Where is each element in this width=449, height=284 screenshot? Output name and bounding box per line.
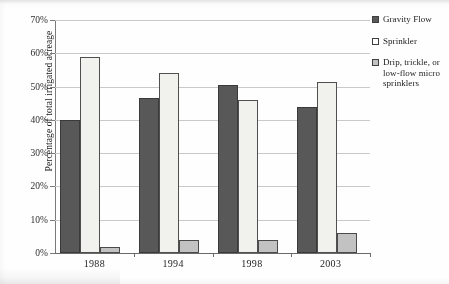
bar-2003-series-0: [297, 107, 317, 253]
scan-smudge: [0, 268, 120, 284]
legend-item-2: Drip, trickle, or low-flow micro sprinkl…: [372, 57, 448, 89]
light-gray-square-icon: [372, 59, 379, 66]
x-tick-mark-1: [134, 253, 135, 257]
bar-1994-series-1: [159, 73, 179, 253]
x-tick-mark-4: [370, 253, 371, 257]
y-tick-label-10: 10%: [4, 215, 48, 225]
bar-1988-series-1: [80, 57, 100, 253]
x-tick-mark-3: [291, 253, 292, 257]
bar-1994-series-0: [139, 98, 159, 253]
y-tick-label-70: 70%: [4, 15, 48, 25]
legend-label-2: Drip, trickle, or low-flow micro sprinkl…: [383, 57, 448, 89]
bar-1998-series-1: [238, 100, 258, 253]
plot-area: [55, 20, 370, 253]
y-tick-label-40: 40%: [4, 115, 48, 125]
bar-group-2003: [297, 20, 357, 253]
y-tick-label-30: 30%: [4, 148, 48, 158]
y-axis-title: Percentage of total irrigated acreage: [44, 6, 54, 196]
bar-1994-series-2: [179, 240, 199, 253]
y-tick-label-50: 50%: [4, 82, 48, 92]
bar-1998-series-2: [258, 240, 278, 253]
legend-label-1: Sprinkler: [383, 36, 417, 47]
bar-2003-series-2: [337, 233, 357, 253]
chart-figure: Percentage of total irrigated acreage 0%…: [0, 0, 449, 284]
legend-item-1: Sprinkler: [372, 36, 448, 47]
bar-group-1988: [60, 20, 120, 253]
x-tick-mark-2: [213, 253, 214, 257]
x-axis-label-1994: 1994: [138, 258, 208, 269]
white-square-icon: [372, 38, 379, 45]
x-axis-label-1998: 1998: [217, 258, 287, 269]
legend-label-0: Gravity Flow: [383, 14, 432, 25]
legend-item-0: Gravity Flow: [372, 14, 448, 25]
y-tick-label-20: 20%: [4, 181, 48, 191]
y-tick-label-60: 60%: [4, 48, 48, 58]
x-axis-label-2003: 2003: [296, 258, 366, 269]
bar-group-1998: [218, 20, 278, 253]
x-axis-label-1988: 1988: [59, 258, 129, 269]
bar-2003-series-1: [317, 82, 337, 253]
chart-legend: Gravity FlowSprinklerDrip, trickle, or l…: [372, 14, 448, 100]
bar-group-1994: [139, 20, 199, 253]
y-tick-label-0: 0%: [4, 248, 48, 258]
bar-1988-series-2: [100, 247, 120, 253]
bar-1998-series-0: [218, 85, 238, 253]
bar-1988-series-0: [60, 120, 80, 253]
dark-gray-square-icon: [372, 16, 379, 23]
